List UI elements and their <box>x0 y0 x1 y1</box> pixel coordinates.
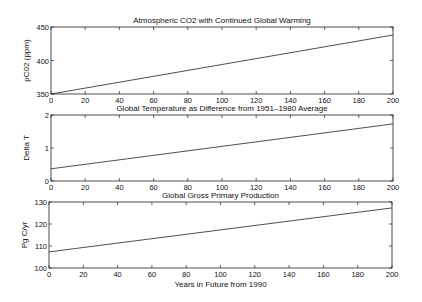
y-axis-label: Pg C/yr <box>20 221 29 248</box>
y-tick-label: 1 <box>45 144 49 153</box>
y-tick-label: 350 <box>36 90 49 99</box>
x-tick-label: 200 <box>387 96 400 105</box>
plot-frame <box>51 27 393 94</box>
x-tick-label: 40 <box>113 270 121 279</box>
y-tick-label: 120 <box>34 220 47 229</box>
subplot-2: 020406080100120140160180200012Global Tem… <box>22 104 399 192</box>
x-tick-label: 60 <box>149 183 157 192</box>
y-tick-label: 130 <box>34 198 47 207</box>
x-tick-label: 180 <box>353 96 366 105</box>
subplot-3: 020406080100120140160180200100110120130G… <box>20 191 398 289</box>
x-tick-label: 0 <box>49 183 53 192</box>
x-tick-label: 0 <box>49 96 53 105</box>
x-tick-label: 160 <box>318 183 331 192</box>
x-tick-label: 140 <box>283 270 296 279</box>
x-tick-label: 20 <box>79 270 87 279</box>
figure: 020406080100120140160180200350400450Atmo… <box>0 0 422 302</box>
x-tick-label: 20 <box>81 183 89 192</box>
plot-title: Global Temperature as Difference from 19… <box>116 104 328 113</box>
x-tick-label: 80 <box>182 270 190 279</box>
data-line <box>51 35 393 94</box>
x-tick-label: 200 <box>386 270 399 279</box>
subplot-1: 020406080100120140160180200350400450Atmo… <box>22 16 399 105</box>
x-axis-label: Years in Future from 1990 <box>174 280 267 289</box>
y-tick-label: 450 <box>36 23 49 32</box>
x-tick-label: 40 <box>115 183 123 192</box>
y-tick-label: 110 <box>35 242 47 251</box>
x-tick-label: 200 <box>387 183 400 192</box>
x-tick-label: 120 <box>249 270 262 279</box>
y-tick-label: 100 <box>34 264 47 273</box>
x-tick-label: 180 <box>351 270 364 279</box>
x-tick-label: 100 <box>214 270 227 279</box>
plot-frame <box>49 202 392 268</box>
x-tick-label: 160 <box>317 270 330 279</box>
y-tick-label: 0 <box>45 177 49 186</box>
data-line <box>51 124 393 169</box>
x-tick-label: 140 <box>284 183 297 192</box>
data-line <box>49 208 392 252</box>
y-tick-label: 400 <box>36 57 49 66</box>
x-tick-label: 0 <box>47 270 51 279</box>
plot-frame <box>51 115 393 181</box>
plot-title: Global Gross Primary Production <box>162 191 279 200</box>
y-axis-label: Delta T <box>22 135 31 161</box>
x-tick-label: 180 <box>353 183 366 192</box>
y-axis-label: pC02 (ppm) <box>22 39 31 82</box>
y-tick-label: 2 <box>45 111 49 120</box>
x-tick-label: 60 <box>148 270 156 279</box>
plot-title: Atmospheric CO2 with Continued Global Wa… <box>133 16 311 25</box>
x-tick-label: 20 <box>81 96 89 105</box>
